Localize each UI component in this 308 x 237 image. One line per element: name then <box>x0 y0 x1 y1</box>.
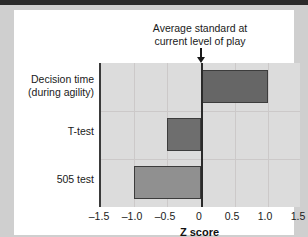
y-tick-decision-time: Decision time (during agility) <box>28 73 94 98</box>
bar-505-test[interactable] <box>134 166 201 199</box>
bar-t-test[interactable] <box>167 118 201 151</box>
y-tick-t-test-line1: T-test <box>68 125 94 138</box>
zero-axis-line <box>201 63 203 207</box>
plot-area <box>99 63 300 207</box>
bar-decision-time[interactable] <box>201 70 268 103</box>
chart-card: Average standard at current level of pla… <box>14 10 294 235</box>
x-axis-title: Z score <box>99 226 300 237</box>
y-tick-t-test: T-test <box>68 125 94 138</box>
y-axis-labels: Decision time (during agility) T-test 50… <box>14 63 94 207</box>
top-band <box>0 0 308 5</box>
y-tick-decision-time-line1: Decision time <box>28 73 94 86</box>
y-tick-505-test: 505 test <box>57 173 94 186</box>
annotation-label: Average standard at current level of pla… <box>126 22 274 47</box>
annotation-line-1: Average standard at <box>126 22 274 35</box>
y-tick-505-test-line1: 505 test <box>57 173 94 186</box>
x-tick-1-5: 1.5 <box>278 210 308 222</box>
annotation-line-2: current level of play <box>126 35 274 48</box>
gridline-vertical <box>268 63 269 207</box>
y-tick-decision-time-line2: (during agility) <box>28 86 94 99</box>
